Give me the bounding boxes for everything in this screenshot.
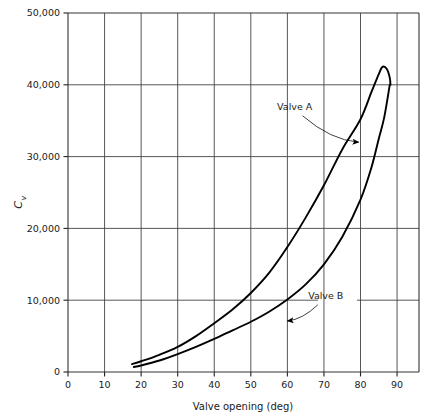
x-tick-label-90: 90	[391, 379, 403, 390]
chart-background	[0, 0, 435, 419]
x-tick-label-60: 60	[281, 379, 293, 390]
x-tick-label-30: 30	[172, 379, 184, 390]
x-tick-label-20: 20	[135, 379, 147, 390]
y-tick-label-0: 0	[54, 366, 60, 377]
x-tick-label-50: 50	[245, 379, 257, 390]
x-axis-title: Valve opening (deg)	[193, 401, 294, 412]
y-tick-label-50000: 50,000	[27, 7, 60, 18]
annotation-label-valve-b: Valve B	[308, 290, 343, 301]
cv-vs-valve-opening-chart: 0102030405060708090 010,00020,00030,0004…	[0, 0, 435, 419]
x-tick-label-0: 0	[65, 379, 71, 390]
y-tick-label-20000: 20,000	[27, 223, 60, 234]
x-tick-label-70: 70	[318, 379, 330, 390]
y-axis-title-main: C	[12, 201, 25, 209]
x-tick-label-80: 80	[354, 379, 366, 390]
x-tick-label-40: 40	[208, 379, 220, 390]
y-tick-label-30000: 30,000	[27, 151, 60, 162]
y-tick-label-10000: 10,000	[27, 295, 60, 306]
x-tick-label-10: 10	[99, 379, 111, 390]
y-tick-label-40000: 40,000	[27, 79, 60, 90]
y-axis-title-subscript: v	[19, 195, 28, 200]
annotation-label-valve-a: Valve A	[277, 101, 313, 112]
chart-figure: 0102030405060708090 010,00020,00030,0004…	[0, 0, 435, 419]
